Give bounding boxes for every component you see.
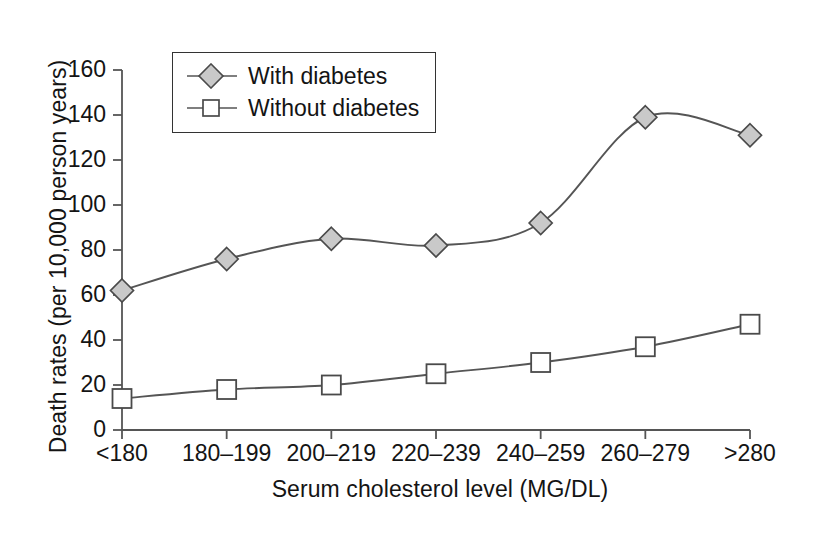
filled-diamond-icon [185, 63, 239, 89]
legend-item-without-diabetes: Without diabetes [185, 92, 419, 124]
chart-legend: With diabetes Without diabetes [172, 52, 436, 133]
open-square-icon [185, 95, 239, 121]
data-point-square-5 [636, 337, 655, 356]
data-point-square-2 [322, 376, 341, 395]
series-without-diabetes [113, 315, 760, 408]
data-point-square-4 [531, 353, 550, 372]
data-point-square-6 [741, 315, 760, 334]
data-point-diamond-3 [425, 234, 448, 257]
data-point-diamond-4 [529, 212, 552, 235]
data-point-square-0 [113, 389, 132, 408]
data-point-diamond-0 [111, 279, 134, 302]
data-series-layer [111, 106, 762, 408]
data-point-square-1 [217, 380, 236, 399]
data-point-square-3 [427, 364, 446, 383]
data-point-diamond-5 [634, 106, 657, 129]
chart-figure: Death rates (per 10,000 person years) 02… [0, 0, 814, 534]
series-with-diabetes [111, 106, 762, 302]
legend-item-with-diabetes: With diabetes [185, 60, 419, 92]
legend-label-with-diabetes: With diabetes [248, 63, 387, 89]
legend-label-without-diabetes: Without diabetes [248, 95, 419, 121]
data-point-diamond-1 [215, 248, 238, 271]
data-point-diamond-2 [320, 227, 343, 250]
data-point-diamond-6 [739, 124, 762, 147]
